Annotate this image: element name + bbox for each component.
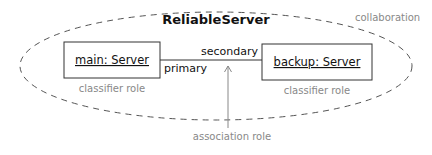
association-role-label: association role [193,131,271,142]
association-end-secondary: secondary [201,45,258,58]
classifier-role-label-main: classifier role [79,83,145,94]
object-name-backup: backup: Server [274,55,361,69]
collaboration-diagram: ReliableServer collaboration main: Serve… [0,0,432,155]
classifier-role-label-backup: classifier role [284,85,350,96]
collaboration-label: collaboration [355,12,420,23]
object-name-main: main: Server [75,53,149,67]
association-end-primary: primary [164,62,208,75]
collaboration-title: ReliableServer [162,12,270,27]
